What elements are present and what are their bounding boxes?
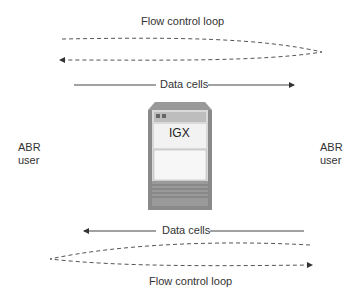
left-abr-label-line2: user <box>18 154 39 166</box>
left-abr-label-line1: ABR <box>18 141 41 153</box>
top-flow-loop-label: Flow control loop <box>141 15 224 27</box>
right-abr-label-line2: user <box>320 154 341 166</box>
diagram-canvas <box>0 0 356 299</box>
igx-switch-icon <box>148 102 212 210</box>
top-flow-loop-arrow <box>60 38 322 60</box>
device-label: IGX <box>169 126 190 140</box>
right-abr-label-line1: ABR <box>320 141 343 153</box>
bottom-flow-loop-arrow <box>50 243 312 266</box>
bottom-flow-loop-label: Flow control loop <box>149 275 232 287</box>
top-data-cells-label: Data cells <box>160 78 208 90</box>
bottom-data-cells-label: Data cells <box>162 224 210 236</box>
